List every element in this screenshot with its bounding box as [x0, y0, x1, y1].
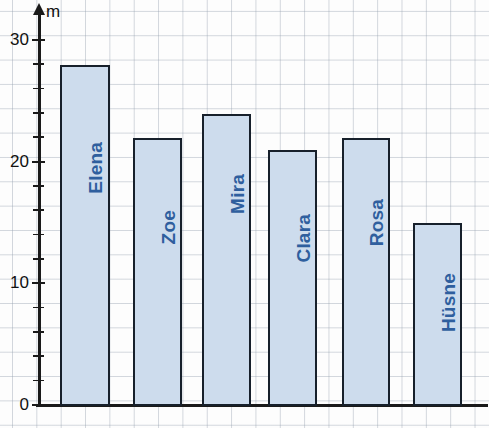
bar-label: Elena	[85, 142, 107, 194]
bar[interactable]: Mira	[202, 114, 251, 406]
bar-label: Zoe	[158, 210, 180, 244]
bar[interactable]: Clara	[268, 150, 317, 406]
bar[interactable]: Elena	[60, 65, 110, 406]
bar[interactable]: Hüsne	[413, 223, 462, 406]
bar[interactable]: Zoe	[133, 138, 182, 406]
bar[interactable]: Rosa	[342, 138, 390, 406]
bar-label: Clara	[293, 214, 315, 263]
bar-label: Rosa	[366, 199, 388, 246]
bar-label: Mira	[227, 174, 249, 214]
bar-label: Hüsne	[438, 273, 460, 332]
bar-chart: m 3020100 ElenaZoeMiraClaraRosaHüsne	[0, 0, 489, 428]
bars-layer: ElenaZoeMiraClaraRosaHüsne	[0, 0, 489, 428]
